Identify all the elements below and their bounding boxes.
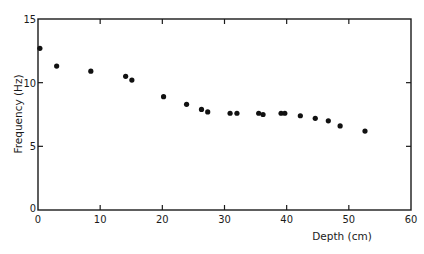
data-point (298, 113, 303, 118)
data-point (338, 123, 343, 128)
data-point (88, 69, 93, 74)
x-tick-label: 10 (94, 213, 107, 226)
x-tick-label: 30 (218, 213, 231, 226)
scatter-chart: 0102030405060 051015 Depth (cm) Frequenc… (0, 0, 424, 254)
data-point (326, 118, 331, 123)
y-tick-label: 5 (30, 140, 36, 153)
plot-border (38, 19, 411, 210)
y-tick-label: 0 (30, 202, 36, 215)
x-axis-title: Depth (cm) (312, 230, 372, 242)
y-tick-labels: 051015 (23, 13, 36, 215)
data-point (184, 102, 189, 107)
x-tick-label: 50 (343, 213, 356, 226)
data-point (123, 74, 128, 79)
data-point (199, 107, 204, 112)
data-point (205, 109, 210, 114)
data-point (313, 116, 318, 121)
data-point (260, 112, 265, 117)
data-point (37, 46, 42, 51)
x-tick-labels: 0102030405060 (35, 213, 417, 226)
y-tick-label: 10 (23, 77, 36, 90)
data-point (282, 111, 287, 116)
plot-frame (38, 19, 411, 210)
data-point (362, 128, 367, 133)
x-tick-label: 40 (280, 213, 293, 226)
x-tick-label: 60 (405, 213, 418, 226)
y-axis-title: Frequency (Hz) (12, 74, 24, 153)
data-point (54, 64, 59, 69)
data-point (161, 94, 166, 99)
data-points (37, 46, 367, 134)
axis-ticks (38, 19, 411, 210)
x-tick-label: 20 (156, 213, 169, 226)
data-point (227, 111, 232, 116)
data-point (234, 111, 239, 116)
data-point (129, 78, 134, 83)
y-tick-label: 15 (23, 13, 36, 26)
